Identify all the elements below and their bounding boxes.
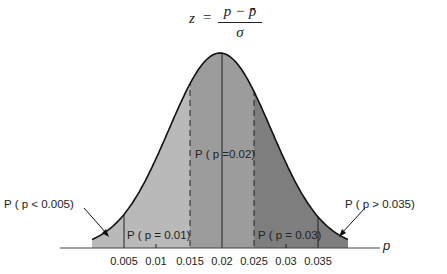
label-right-tail: P ( p > 0.035)	[345, 198, 415, 210]
tick-label-0.025: 0.025	[240, 255, 268, 267]
formula-numerator: p − p̄	[218, 3, 262, 20]
tick-label-0.035: 0.035	[304, 255, 332, 267]
shaded-regions	[60, 40, 394, 250]
tick-label-0.02: 0.02	[211, 255, 232, 267]
label-left-tail: P ( p < 0.005)	[4, 198, 74, 210]
z-formula: z = p − p̄ σ	[0, 0, 447, 50]
label-right-band: P ( p = 0.03)	[258, 229, 321, 241]
tick-label-0.01: 0.01	[145, 255, 166, 267]
tick-label-0.015: 0.015	[176, 255, 204, 267]
tick-label-0.03: 0.03	[275, 255, 296, 267]
fraction-bar	[218, 22, 262, 23]
x-axis-label: p	[383, 238, 390, 253]
region-right	[254, 40, 394, 250]
tick-label-0.005: 0.005	[110, 255, 138, 267]
label-center: P ( p =0.02)	[195, 148, 255, 160]
region-left	[60, 40, 190, 250]
right-arrow-icon	[341, 208, 365, 234]
formula-equals: =	[203, 9, 211, 26]
label-left-band: P ( p = 0.01)	[127, 229, 190, 241]
formula-denominator: σ	[218, 24, 262, 41]
left-arrow-icon	[84, 208, 107, 234]
formula-lhs: z	[189, 10, 195, 27]
